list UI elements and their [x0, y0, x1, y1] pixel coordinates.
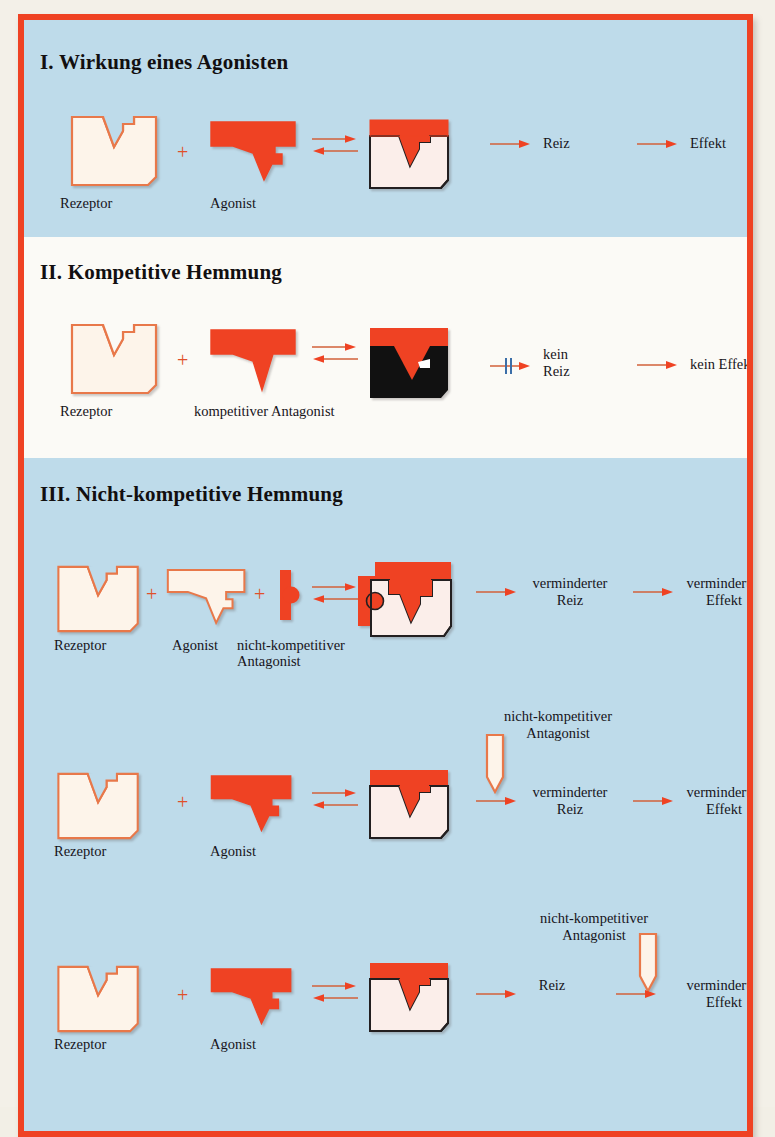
stimulus-label-1: Reiz: [543, 135, 570, 152]
plus-operator-3b: +: [177, 792, 188, 812]
receptor-shape-3a: [56, 565, 142, 633]
agonist-shape-3b: [209, 774, 295, 842]
receptor-shape-1: [70, 115, 160, 187]
no-stimulus-label-line1: kein: [543, 346, 568, 363]
noncompetitive-antagonist-label-3a-line1: nicht-kompetitiver: [237, 637, 345, 654]
agonist-label-3a: Agonist: [172, 637, 218, 654]
agonist-label-1: Agonist: [210, 195, 256, 212]
receptor-label-3b: Rezeptor: [54, 843, 106, 860]
noncompetitive-antagonist-arrow-3c: [635, 932, 661, 994]
receptor-agonist-complex-3c: [368, 961, 454, 1035]
noncompetitive-antagonist-label-3a-line2: Antagonist: [237, 653, 301, 670]
agonist-shape-3c: [209, 967, 295, 1035]
reduced-effect-label-3b-line1: verminderter: [687, 784, 753, 801]
reduced-stimulus-label-3b-line2: Reiz: [557, 801, 584, 818]
receptor-agonist-complex-3b: [368, 768, 454, 842]
reduced-effect-label-3a-line2: Effekt: [706, 592, 742, 609]
equilibrium-arrows-3c: [312, 979, 358, 1007]
equilibrium-arrows-1: [312, 132, 358, 160]
receptor-shape-2: [70, 323, 160, 395]
reduced-stimulus-label-3a-line2: Reiz: [557, 592, 584, 609]
section-3-heading: III. Nicht-kompetitive Hemmung: [40, 482, 343, 507]
equilibrium-arrows-2: [312, 340, 358, 368]
reduced-effect-label-3c-line2: Effekt: [706, 994, 742, 1011]
receptor-label-1: Rezeptor: [60, 195, 112, 212]
reduced-stimulus-label-3a-line1: verminderter: [533, 575, 608, 592]
agonist-label-3c: Agonist: [210, 1036, 256, 1053]
reduced-stimulus-arrow-3b: [476, 795, 518, 807]
noncompetitive-antagonist-arrow-3b: [482, 733, 508, 795]
receptor-label-2: Rezeptor: [60, 403, 112, 420]
plus-operator-1: +: [177, 142, 188, 162]
reduced-effect-arrow-3b: [633, 795, 675, 807]
plus-operator-3a-1: +: [146, 584, 157, 604]
noncompetitive-antagonist-shape-3a: [278, 570, 304, 620]
plus-operator-2: +: [177, 350, 188, 370]
agonist-shape-1: [209, 120, 299, 192]
equilibrium-arrows-3a: [312, 580, 358, 608]
stimulus-arrow-3c: [476, 988, 518, 1000]
section-2-heading: II. Kompetitive Hemmung: [40, 260, 282, 285]
no-effect-arrow: [637, 359, 679, 371]
agonist-shape-3a: [166, 568, 248, 634]
competitive-antagonist-shape: [209, 328, 299, 400]
effect-label-1: Effekt: [690, 135, 726, 152]
noncompetitive-antagonist-label-3c-line1: nicht-kompetitiver: [540, 910, 648, 927]
receptor-label-3c: Rezeptor: [54, 1036, 106, 1053]
plus-operator-3a-2: +: [254, 584, 265, 604]
reduced-stimulus-arrow-3a: [476, 586, 518, 598]
reduced-effect-label-3a-line1: verminderter: [687, 575, 753, 592]
noncompetitive-antagonist-label-3b-line2: Antagonist: [526, 725, 590, 742]
equilibrium-arrows-3b: [312, 786, 358, 814]
no-stimulus-label-line2: Reiz: [543, 363, 570, 380]
receptor-agonist-complex-1: [368, 118, 454, 192]
competitive-antagonist-label: kompetitiver Antagonist: [194, 403, 335, 420]
stimulus-arrow-1: [490, 138, 532, 150]
ternary-complex-3a: [356, 560, 456, 638]
blocked-stimulus-arrow: [490, 355, 532, 377]
agonist-label-3b: Agonist: [210, 843, 256, 860]
receptor-shape-3b: [56, 772, 142, 840]
no-effect-label: kein Effekt: [690, 356, 753, 373]
receptor-shape-3c: [56, 965, 142, 1033]
section-1-heading: I. Wirkung eines Agonisten: [40, 50, 288, 75]
reduced-effect-label-3c-line1: verminderter: [687, 977, 753, 994]
reduced-effect-arrow-3a: [633, 586, 675, 598]
noncompetitive-antagonist-label-3b-line1: nicht-kompetitiver: [504, 708, 612, 725]
noncompetitive-antagonist-label-3c-line2: Antagonist: [562, 927, 626, 944]
receptor-label-3a: Rezeptor: [54, 637, 106, 654]
effect-arrow-1: [637, 138, 679, 150]
figure-frame: I. Wirkung eines Agonisten Rezeptor + Ag…: [18, 14, 753, 1137]
reduced-effect-arrow-3c: [616, 988, 658, 1000]
stimulus-label-3c: Reiz: [539, 977, 566, 994]
plus-operator-3c: +: [177, 985, 188, 1005]
receptor-antagonist-complex: [368, 326, 454, 400]
reduced-stimulus-label-3b-line1: verminderter: [533, 784, 608, 801]
reduced-effect-label-3b-line2: Effekt: [706, 801, 742, 818]
